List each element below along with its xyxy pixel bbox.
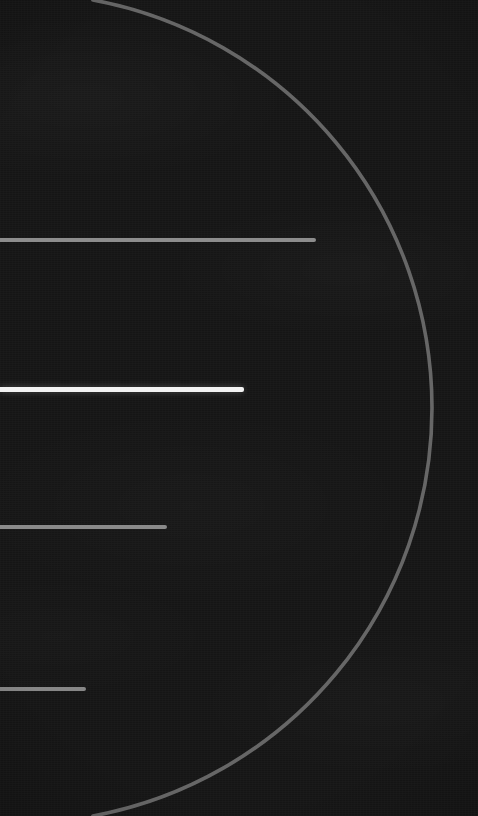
bar-4[interactable] <box>0 687 86 691</box>
arc-svg-layer <box>0 0 478 816</box>
vignette-overlay <box>0 0 478 816</box>
progress-arc-icon <box>93 0 432 816</box>
background-blotch-texture <box>0 0 478 816</box>
bar-2[interactable] <box>0 387 244 392</box>
background-noise-texture <box>0 0 478 816</box>
bar-1[interactable] <box>0 238 316 242</box>
screen-root <box>0 0 478 816</box>
bar-3[interactable] <box>0 525 167 529</box>
